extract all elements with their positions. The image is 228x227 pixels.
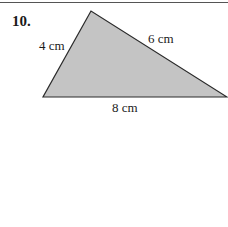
side-label-left: 4 cm (39, 38, 65, 54)
side-label-right: 6 cm (148, 31, 174, 47)
side-label-base: 8 cm (112, 100, 138, 116)
triangle-shape (43, 11, 227, 97)
